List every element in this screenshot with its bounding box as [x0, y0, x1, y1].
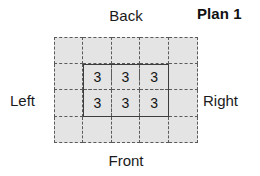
footprint-cell: 3	[84, 65, 112, 91]
direction-label-front: Front	[0, 152, 252, 169]
grid-cell	[169, 90, 198, 117]
grid-cell	[54, 117, 83, 144]
grid-cell	[169, 117, 198, 144]
grid-cell	[83, 37, 112, 64]
grid-container: 3 3 3 3 3 3	[54, 37, 198, 143]
footprint-cell: 3	[112, 65, 140, 91]
building-footprint: 3 3 3 3 3 3	[83, 64, 169, 117]
footprint-cell: 3	[84, 90, 112, 116]
grid-cell	[54, 90, 83, 117]
footprint-cell: 3	[140, 65, 168, 91]
footprint-cell: 3	[112, 90, 140, 116]
grid-cell	[169, 64, 198, 91]
grid-cell	[112, 117, 141, 144]
grid-cell	[83, 117, 112, 144]
footprint-cell: 3	[140, 90, 168, 116]
grid-cell	[140, 117, 169, 144]
grid-cell	[140, 37, 169, 64]
grid-cell	[112, 37, 141, 64]
grid-cell	[54, 37, 83, 64]
plan-diagram: Plan 1 Back Front Left Right	[0, 0, 260, 176]
direction-label-left: Left	[10, 92, 35, 109]
direction-label-back: Back	[0, 7, 252, 24]
grid-cell	[169, 37, 198, 64]
grid-cell	[54, 64, 83, 91]
direction-label-right: Right	[203, 92, 238, 109]
